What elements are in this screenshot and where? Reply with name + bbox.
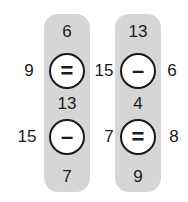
- minus-operator-circle: –: [49, 119, 85, 155]
- left-column-problem1-left-number: 9: [14, 62, 44, 80]
- right-column-problem1-right-number: 6: [157, 62, 187, 80]
- right-column-problem2-right-number: 8: [159, 128, 188, 146]
- equals-operator-circle: =: [49, 53, 85, 89]
- minus-operator-circle: –: [120, 53, 156, 89]
- left-column-problem2-left-number: 15: [12, 128, 42, 146]
- left-column-bottom-number: 7: [52, 168, 82, 186]
- equals-operator-circle: =: [120, 119, 156, 155]
- left-column-middle-number: 13: [52, 95, 82, 113]
- left-column-top-number: 6: [52, 23, 82, 41]
- right-column-middle-number: 4: [123, 95, 153, 113]
- right-column-top-number: 13: [123, 23, 153, 41]
- right-column-problem1-left-number: 15: [89, 62, 119, 80]
- right-column-bottom-number: 9: [123, 168, 153, 186]
